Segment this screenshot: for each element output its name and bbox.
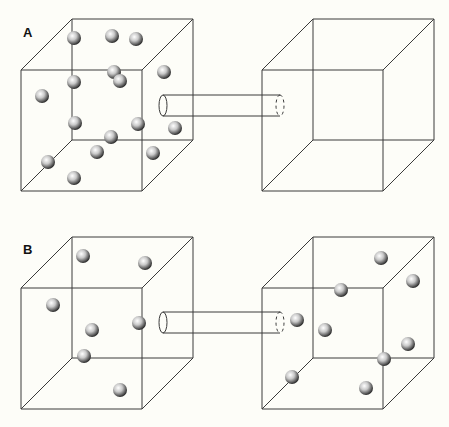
particle bbox=[85, 323, 99, 337]
particle bbox=[374, 251, 388, 265]
right-container bbox=[262, 237, 434, 409]
particle bbox=[377, 352, 391, 366]
connecting-tube bbox=[159, 95, 284, 116]
tube-opening-left bbox=[159, 312, 167, 333]
particle bbox=[67, 75, 81, 89]
particle bbox=[90, 145, 104, 159]
particle bbox=[113, 383, 127, 397]
particle bbox=[168, 121, 182, 135]
particle bbox=[104, 130, 118, 144]
particle bbox=[67, 171, 81, 185]
particle bbox=[132, 316, 146, 330]
right-particles bbox=[285, 251, 420, 395]
particle bbox=[359, 381, 373, 395]
tube-opening-right bbox=[280, 95, 284, 116]
particle bbox=[41, 155, 55, 169]
particle bbox=[406, 274, 420, 288]
particle bbox=[67, 31, 81, 45]
particle bbox=[113, 74, 127, 88]
particle bbox=[285, 370, 299, 384]
tube-opening-right bbox=[280, 312, 284, 333]
particle bbox=[334, 283, 348, 297]
panel-b: B bbox=[21, 237, 434, 409]
particle bbox=[290, 313, 304, 327]
panel-label-b: B bbox=[23, 242, 32, 257]
particle bbox=[146, 146, 160, 160]
panel-a: A bbox=[21, 19, 434, 191]
particle bbox=[401, 337, 415, 351]
particle bbox=[46, 298, 60, 312]
particle bbox=[318, 323, 332, 337]
particle bbox=[131, 117, 145, 131]
particle bbox=[138, 256, 152, 270]
left-particles bbox=[46, 249, 152, 397]
particle bbox=[77, 349, 91, 363]
particle bbox=[157, 65, 171, 79]
particle bbox=[105, 29, 119, 43]
particle bbox=[35, 89, 49, 103]
particle bbox=[129, 32, 143, 46]
particle bbox=[68, 116, 82, 130]
panel-label-a: A bbox=[23, 25, 33, 40]
tube-opening-left bbox=[159, 95, 167, 116]
particle bbox=[76, 249, 90, 263]
connecting-tube bbox=[159, 312, 284, 333]
right-container bbox=[262, 19, 434, 191]
diffusion-diagram: A B bbox=[0, 0, 449, 427]
